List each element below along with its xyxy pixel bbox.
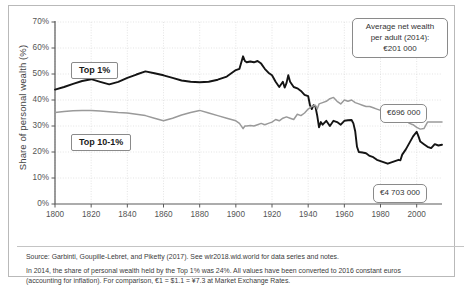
x-tick-label: 1820 [71, 210, 111, 219]
x-tick-label: 1940 [288, 210, 328, 219]
footnote-note-line2: (accounting for inflation). For comparis… [26, 276, 455, 287]
callout-average-line2: per adult (2014): [359, 33, 441, 44]
footnote-source: Source: Garbinti, Goupille-Lebret, and P… [26, 252, 455, 263]
callout-average-net-wealth: Average net wealth per adult (2014): €20… [352, 18, 448, 58]
x-tick-label: 1840 [107, 210, 147, 219]
x-tick-label: 1900 [216, 210, 256, 219]
y-tick-label: 30% [15, 121, 49, 130]
y-tick-label: 60% [15, 43, 49, 52]
x-tick-label: 1800 [35, 210, 75, 219]
footnotes: Source: Garbinti, Goupille-Lebret, and P… [17, 246, 464, 287]
y-tick-label: 20% [15, 147, 49, 156]
x-tick-label: 1860 [144, 210, 184, 219]
callout-average-line1: Average net wealth [359, 22, 441, 33]
callout-top1-value: €4 703 000 [373, 184, 427, 203]
plot-area: Share of personal wealth (%) 0%10%20%30%… [9, 6, 456, 246]
x-tick-label: 1980 [361, 210, 401, 219]
y-tick-label: 50% [15, 69, 49, 78]
callout-average-line3: €201 000 [359, 44, 441, 55]
series-label-top1: Top 1% [71, 62, 118, 79]
callout-top10-value: €696 000 [380, 104, 427, 123]
y-tick-label: 10% [15, 173, 49, 182]
y-tick-label: 0% [15, 199, 49, 208]
footnote-note-line1: In 2014, the share of personal wealth he… [26, 266, 455, 277]
series-label-top10-1: Top 10-1% [71, 134, 131, 151]
chart-frame: Share of personal wealth (%) 0%10%20%30%… [8, 5, 455, 277]
y-tick-label: 40% [15, 95, 49, 104]
x-tick-label: 1920 [252, 210, 292, 219]
x-tick-label: 1880 [180, 210, 220, 219]
x-tick-label: 2000 [397, 210, 437, 219]
x-tick-label: 1960 [324, 210, 364, 219]
y-tick-label: 70% [15, 17, 49, 26]
